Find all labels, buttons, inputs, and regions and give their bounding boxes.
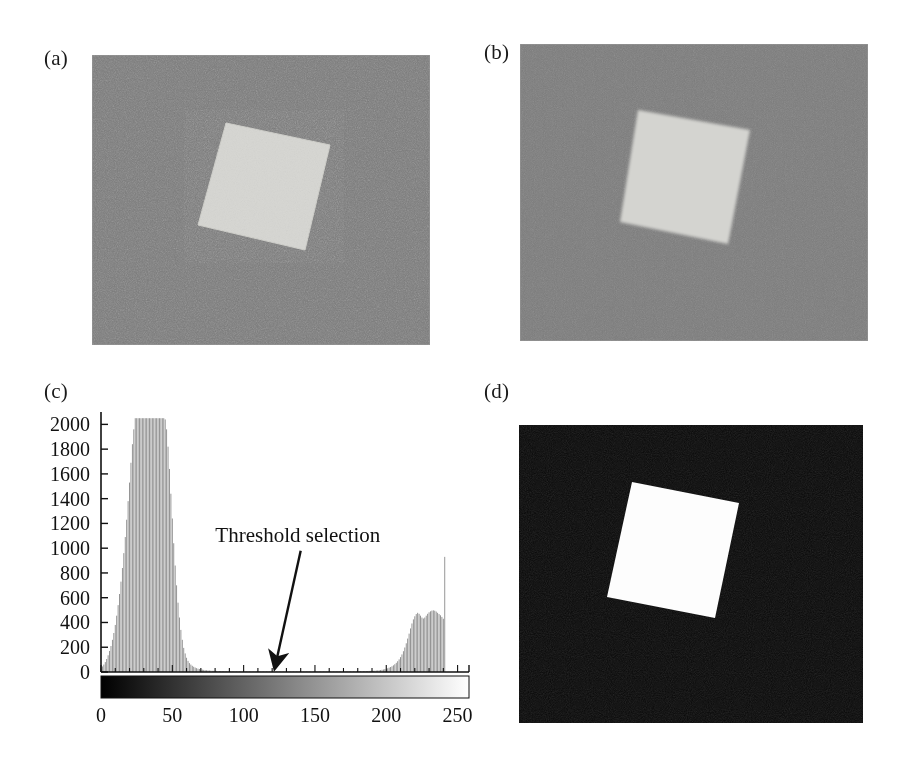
threshold-arrow <box>275 551 301 667</box>
panel-a-label: (a) <box>44 48 68 69</box>
histogram-bar <box>156 418 157 672</box>
histogram-bar <box>404 647 405 672</box>
histogram-bar <box>121 582 122 672</box>
histogram-bar <box>424 618 425 672</box>
histogram-bar <box>433 610 434 672</box>
histogram-bar <box>407 639 408 672</box>
histogram-bar <box>409 634 410 672</box>
x-tick-label: 0 <box>96 704 106 726</box>
histogram-bar <box>111 646 112 672</box>
panel-c-label: (c) <box>44 381 68 402</box>
histogram-bar <box>158 418 159 672</box>
histogram-bar <box>427 614 428 672</box>
grayscale-colorbar <box>101 676 469 698</box>
histogram-y-tick-labels: 0200400600800100012001400160018002000 <box>50 413 90 683</box>
histogram-bar <box>178 603 179 672</box>
histogram-chart: 0200400600800100012001400160018002000 05… <box>30 400 475 740</box>
histogram-bar <box>113 633 114 672</box>
histogram-bar <box>397 661 398 672</box>
histogram-bar <box>396 663 397 672</box>
histogram-bar <box>128 501 129 672</box>
histogram-bar <box>122 568 123 672</box>
panel-b-label: (b) <box>484 42 509 63</box>
x-tick-label: 250 <box>443 704 473 726</box>
threshold-selection-text: Threshold selection <box>215 523 381 547</box>
histogram-bar <box>145 418 146 672</box>
panel-a-image <box>92 55 430 345</box>
histogram-bar <box>123 553 124 672</box>
histogram-bar <box>149 418 150 672</box>
histogram-bar <box>165 419 166 672</box>
histogram-bar <box>150 418 151 672</box>
histogram-bar <box>436 612 437 672</box>
histogram-bar <box>419 614 420 672</box>
panel-b-image <box>520 44 868 341</box>
histogram-bar <box>393 665 394 672</box>
histogram-bar <box>136 418 137 672</box>
histogram-bar <box>175 566 176 672</box>
x-tick-label: 200 <box>371 704 401 726</box>
histogram-bar <box>152 418 153 672</box>
histogram-bar <box>163 418 164 672</box>
histogram-bar <box>444 557 445 672</box>
histogram-bar <box>180 630 181 672</box>
histogram-bar <box>431 611 432 672</box>
histogram-svg: 0200400600800100012001400160018002000 05… <box>30 400 475 740</box>
threshold-annotation: Threshold selection <box>215 523 381 667</box>
histogram-bar <box>176 585 177 672</box>
histogram-bar <box>126 520 127 672</box>
histogram-bar <box>192 666 193 672</box>
histogram-bar <box>106 659 107 672</box>
histogram-bar <box>139 418 140 672</box>
x-tick-label: 150 <box>300 704 330 726</box>
histogram-bar <box>162 418 163 672</box>
histogram-bar <box>166 429 167 672</box>
histogram-bar <box>179 618 180 672</box>
histogram-bar <box>153 418 154 672</box>
histogram-bar <box>416 614 417 672</box>
histogram-bar <box>403 651 404 672</box>
histogram-bar <box>116 616 117 672</box>
histogram-bar <box>159 418 160 672</box>
histogram-bar <box>441 617 442 672</box>
histogram-bar <box>119 594 120 672</box>
x-tick-label: 50 <box>162 704 182 726</box>
histogram-x-tick-labels: 050100150200250 <box>96 704 473 726</box>
histogram-bar <box>173 543 174 672</box>
histogram-bar <box>417 613 418 672</box>
histogram-bar <box>146 418 147 672</box>
histogram-bar <box>103 665 104 672</box>
histogram-bar <box>190 665 191 672</box>
histogram-bar <box>430 611 431 672</box>
histogram-bar <box>413 619 414 672</box>
histogram-bar <box>421 618 422 672</box>
histogram-bar <box>129 483 130 672</box>
histogram-bar <box>148 418 149 672</box>
x-tick-label: 100 <box>229 704 259 726</box>
y-tick-label: 2000 <box>50 413 90 435</box>
histogram-bar <box>185 653 186 672</box>
y-tick-label: 200 <box>60 636 90 658</box>
histogram-bar <box>168 447 169 672</box>
histogram-bar <box>115 625 116 672</box>
histogram-bar <box>108 655 109 672</box>
histogram-bar <box>169 469 170 672</box>
histogram-bar <box>135 418 136 672</box>
histogram-bar <box>105 662 106 672</box>
histogram-bar <box>133 429 134 672</box>
histogram-bar <box>118 605 119 672</box>
histogram-bar <box>439 614 440 672</box>
histogram-bar <box>414 616 415 672</box>
histogram-bar <box>429 612 430 672</box>
histogram-bar <box>131 463 132 672</box>
histogram-bar <box>132 444 133 672</box>
histogram-bar <box>437 613 438 672</box>
y-tick-label: 1800 <box>50 438 90 460</box>
histogram-bar <box>155 418 156 672</box>
y-tick-label: 1200 <box>50 512 90 534</box>
histogram-bar <box>443 619 444 672</box>
histogram-bar <box>112 640 113 672</box>
histogram-bar <box>138 418 139 672</box>
histogram-bar <box>102 666 103 672</box>
y-tick-label: 0 <box>80 661 90 683</box>
